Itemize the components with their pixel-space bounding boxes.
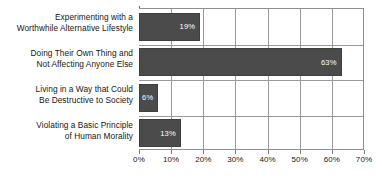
- plot-area: 19% 63% 6% 13%: [139, 8, 364, 150]
- category-label-line: of Human Morality: [0, 131, 133, 142]
- bar-value-label: 63%: [321, 58, 341, 67]
- category-label-line: Doing Their Own Thing and: [0, 48, 133, 59]
- x-tick-mark: [364, 150, 365, 154]
- x-tick-mark: [171, 150, 172, 154]
- bar-experimenting-with-a-worthwhile-alternative-lifestyle[interactable]: 19%: [139, 13, 200, 41]
- bar-value-label: 6%: [142, 93, 157, 102]
- category-label-line: Experimenting with a: [0, 12, 133, 23]
- category-label-line: Be Destructive to Society: [0, 95, 133, 106]
- x-tick-label: 70%: [344, 155, 382, 164]
- x-tick-mark: [235, 150, 236, 154]
- bar-violating-a-basic-principle-of-human-morality[interactable]: 13%: [139, 119, 181, 147]
- x-tick-mark: [203, 150, 204, 154]
- category-label: Doing Their Own Thing and Not Affecting …: [0, 48, 133, 69]
- category-label-line: Living in a Way that Could: [0, 84, 133, 95]
- category-axis-labels: Experimenting with a Worthwhile Alternat…: [0, 8, 137, 150]
- bar-row: 6%: [139, 80, 363, 116]
- category-label: Experimenting with a Worthwhile Alternat…: [0, 12, 133, 33]
- bar-row: 63%: [139, 45, 363, 81]
- bar-row: 19%: [139, 9, 363, 45]
- bar-value-label: 19%: [180, 22, 200, 31]
- category-label-line: Worthwhile Alternative Lifestyle: [0, 23, 133, 34]
- bar-doing-their-own-thing-and-not-affecting-anyone-else[interactable]: 63%: [139, 48, 342, 76]
- bar-row: 13%: [139, 116, 363, 152]
- category-label: Violating a Basic Principle of Human Mor…: [0, 120, 133, 141]
- category-label-line: Not Affecting Anyone Else: [0, 59, 133, 70]
- x-tick-mark: [300, 150, 301, 154]
- bar-chart: Experimenting with a Worthwhile Alternat…: [0, 0, 382, 179]
- x-tick-mark: [139, 150, 140, 154]
- x-tick-mark: [268, 150, 269, 154]
- bar-value-label: 13%: [160, 129, 180, 138]
- category-label: Living in a Way that Could Be Destructiv…: [0, 84, 133, 105]
- category-label-line: Violating a Basic Principle: [0, 120, 133, 131]
- x-axis: 0% 10% 20% 30% 40% 50% 60% 70%: [139, 150, 364, 176]
- x-tick-mark: [332, 150, 333, 154]
- bar-living-in-a-way-that-could-be-destructive-to-society[interactable]: 6%: [139, 84, 158, 112]
